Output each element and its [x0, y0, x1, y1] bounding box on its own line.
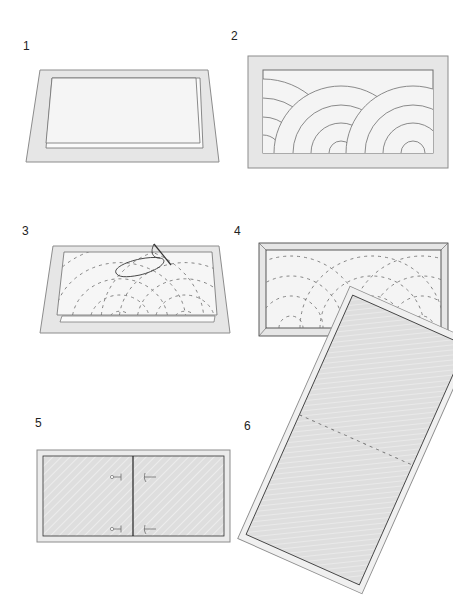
fabric-panel — [246, 295, 453, 585]
diagram-canvas — [0, 0, 453, 599]
fabric-top-layer — [46, 78, 200, 143]
panel-2-arc-pattern — [189, 56, 453, 168]
panel-3-stitching — [36, 244, 269, 333]
base-layer — [60, 316, 215, 322]
panel-1-board-and-fabric — [26, 70, 219, 162]
fabric-layer — [57, 252, 217, 315]
arc-pattern — [189, 79, 453, 153]
panel-5-pinned-halves — [37, 450, 230, 542]
